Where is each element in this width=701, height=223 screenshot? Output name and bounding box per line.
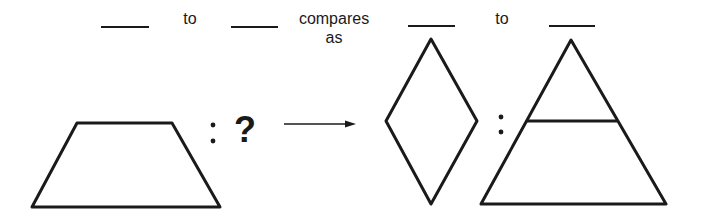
unknown-question-mark: ?: [234, 112, 256, 148]
colon-dot: [211, 123, 216, 128]
arrow-head-icon: [345, 121, 356, 128]
colon-dot: [499, 115, 504, 120]
colon-dot: [211, 139, 216, 144]
rhombus-shape: [386, 39, 477, 204]
colon-dot: [499, 130, 504, 135]
analogy-figures: [0, 0, 701, 223]
trapezoid-shape: [32, 123, 220, 207]
